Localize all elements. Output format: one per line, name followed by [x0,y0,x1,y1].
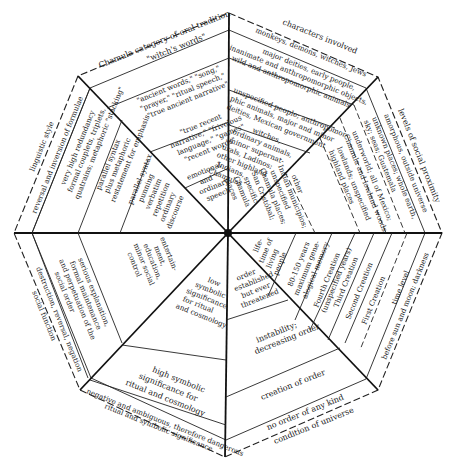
band-before-sun: before sun and moon; darkness [380,251,431,361]
band-parallel-syntax-punning: parallel syntax punning verbatim repetit… [123,153,196,230]
sector-ritual-significance: ritual and symbolic significance negativ… [85,268,245,458]
center-hub [224,229,232,237]
band-creation-of-order: creation of order [259,368,326,402]
category-label: Chamula category of oral tradition [97,9,231,70]
band-low-symbolic: low symbolic significance for ritual and… [174,268,242,330]
octagonal-oral-tradition-diagram: Chamula category of oral tradition "witc… [0,0,452,466]
band-entertainment: entertain- ment, education, minor social… [123,232,182,291]
